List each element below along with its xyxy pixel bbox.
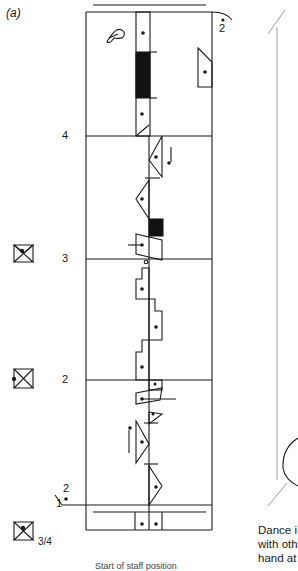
relationship-sign-icon-measure-3 [14, 245, 33, 262]
meter-fraction: 3/4 [38, 536, 52, 547]
caption-line: Dance i [258, 523, 298, 537]
relationship-sign-icon-measure-2 [12, 369, 33, 388]
cadence-tick-bottom [55, 495, 62, 505]
bottom-caption: Start of staff position [95, 561, 177, 571]
caption-line: hand at [258, 551, 298, 565]
right-panel-staff [268, 10, 287, 506]
start-dot-left [140, 522, 144, 526]
caption-line: with oth [258, 537, 298, 551]
measure-1-symbols [129, 380, 176, 505]
measure-2-symbols [136, 268, 162, 380]
relationship-sign-icon-start [14, 522, 33, 540]
start-dot-right [154, 522, 158, 526]
right-panel-circle [283, 438, 298, 486]
measure-4-symbols [107, 12, 212, 136]
right-panel-caption: Dance i with oth hand at [258, 523, 298, 565]
